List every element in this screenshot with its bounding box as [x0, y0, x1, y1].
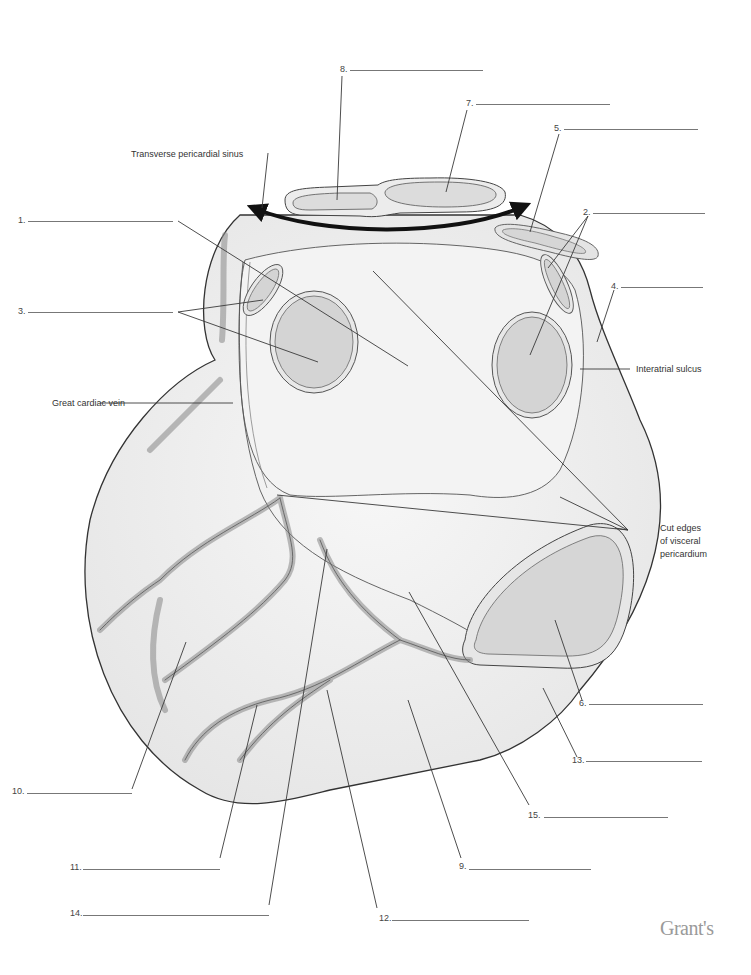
blank-6-number: 6.: [579, 698, 587, 708]
blank-8-number: 8.: [340, 64, 348, 74]
label-cut-edges-1: Cut edges: [660, 523, 701, 533]
blank-9-number: 9.: [459, 861, 467, 871]
blank-4-number: 4.: [611, 281, 619, 291]
blank-5-line[interactable]: [564, 129, 698, 130]
blank-3-number: 3.: [18, 306, 26, 316]
blank-13-number: 13.: [572, 755, 585, 765]
blank-5-number: 5.: [554, 123, 562, 133]
blank-10-number: 10.: [12, 786, 25, 796]
blank-2-line[interactable]: [593, 213, 705, 214]
label-interatrial-sulcus: Interatrial sulcus: [636, 364, 702, 374]
blank-8-line[interactable]: [350, 70, 483, 71]
blank-15-line[interactable]: [544, 817, 668, 818]
blank-3-line[interactable]: [28, 312, 173, 313]
blank-2-number: 2.: [583, 207, 591, 217]
blank-14-number: 14.: [70, 908, 83, 918]
heart-diagram: [0, 0, 751, 975]
blank-1-line[interactable]: [28, 221, 173, 222]
blank-4-line[interactable]: [621, 287, 703, 288]
blank-12-line[interactable]: [392, 920, 529, 921]
blank-14-line[interactable]: [83, 915, 269, 916]
publisher-logo: Grant's: [660, 917, 713, 940]
blank-11-number: 11.: [70, 862, 82, 872]
blank-7-line[interactable]: [476, 104, 610, 105]
blank-13-line[interactable]: [586, 761, 702, 762]
label-transverse-pericardial-sinus: Transverse pericardial sinus: [131, 149, 243, 159]
blank-7-number: 7.: [466, 98, 474, 108]
label-great-cardiac-vein: Great cardiac vein: [52, 398, 125, 408]
blank-10-line[interactable]: [27, 793, 132, 794]
blank-15-number: 15.: [528, 810, 541, 820]
blank-12-number: 12.: [379, 913, 392, 923]
label-cut-edges-2: of visceral: [660, 536, 701, 546]
blank-6-line[interactable]: [589, 704, 703, 705]
blank-11-line[interactable]: [83, 869, 220, 870]
blank-9-line[interactable]: [469, 869, 591, 870]
label-cut-edges-3: pericardium: [660, 549, 707, 559]
blank-1-number: 1.: [18, 215, 26, 225]
